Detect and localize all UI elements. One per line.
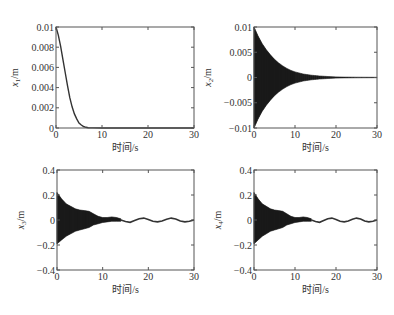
y-tick-label: 0 — [247, 215, 252, 226]
y-tick-label: 0.2 — [240, 190, 253, 201]
y-tick-label: 0 — [247, 72, 252, 83]
x-tick-label: 0 — [54, 129, 59, 140]
data-line — [56, 27, 194, 128]
y-tick-label: 0.005 — [230, 47, 253, 58]
x-tick-label: 0 — [55, 271, 60, 282]
x-axis-label: 时间/s — [302, 283, 329, 295]
subplot-x2: 0102030−0.01−0.00500.0050.01时间/sx2/m — [202, 22, 382, 154]
x-tick-label: 10 — [290, 271, 300, 282]
tail-wave — [311, 218, 377, 222]
figure: 010203000.0020.0040.0060.0080.01时间/sx1/m… — [0, 0, 394, 315]
x-tick-label: 0 — [252, 271, 257, 282]
x-tick-label: 30 — [189, 271, 199, 282]
y-tick-label: 0.2 — [43, 190, 56, 201]
x-tick-label: 10 — [97, 129, 107, 140]
x-tick-label: 20 — [143, 271, 153, 282]
y-tick-label: 0.002 — [32, 102, 55, 113]
x-axis-label: 时间/s — [302, 141, 329, 153]
y-tick-label: 0.4 — [43, 165, 56, 176]
x-tick-label: 30 — [372, 271, 382, 282]
y-tick-label: 0.008 — [32, 42, 55, 53]
x-tick-label: 30 — [189, 129, 199, 140]
y-axis-label: x2/m — [202, 68, 215, 88]
y-tick-label: −0.2 — [234, 240, 252, 251]
y-tick-label: −0.4 — [234, 265, 252, 276]
x-tick-label: 0 — [252, 129, 257, 140]
y-tick-label: 0 — [50, 215, 55, 226]
x-tick-label: 20 — [331, 129, 341, 140]
y-tick-label: −0.4 — [37, 265, 55, 276]
subplot-x3: 0102030−0.4−0.200.20.4时间/sx3/m — [15, 165, 199, 296]
y-tick-label: 0.006 — [32, 62, 55, 73]
y-tick-label: −0.01 — [229, 123, 252, 134]
x-tick-label: 10 — [98, 271, 108, 282]
tail-wave — [121, 218, 194, 222]
axes-frame — [56, 27, 194, 128]
y-tick-label: 0.004 — [32, 82, 55, 93]
y-tick-label: 0 — [49, 123, 54, 134]
y-tick-label: 0.4 — [240, 165, 253, 176]
x-axis-label: 时间/s — [112, 141, 139, 153]
x-tick-label: 30 — [372, 129, 382, 140]
subplot-x1: 010203000.0020.0040.0060.0080.01时间/sx1/m — [9, 22, 199, 154]
y-tick-label: 0.01 — [37, 22, 55, 33]
y-axis-label: x1/m — [9, 68, 22, 88]
x-tick-label: 20 — [331, 271, 341, 282]
y-tick-label: −0.005 — [224, 97, 252, 108]
y-tick-label: 0.01 — [235, 22, 253, 33]
y-axis-label: x3/m — [15, 211, 28, 231]
x-tick-label: 20 — [143, 129, 153, 140]
y-tick-label: −0.2 — [37, 240, 55, 251]
x-axis-label: 时间/s — [112, 283, 139, 295]
x-tick-label: 10 — [290, 129, 300, 140]
y-axis-label: x4/m — [212, 211, 225, 231]
subplot-x4: 0102030−0.4−0.200.20.4时间/sx4/m — [212, 165, 382, 296]
